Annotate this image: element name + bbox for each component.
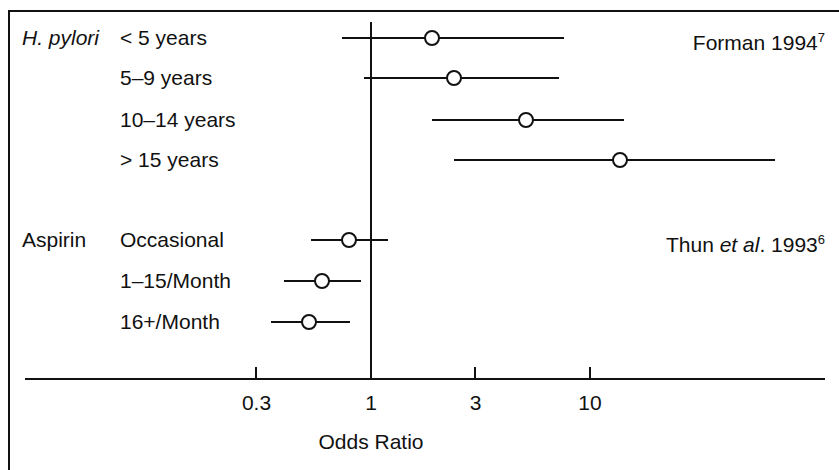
- citation-thun: Thun et al. 19936: [666, 229, 825, 255]
- forest-plot-figure: 0.31310Odds RatioH. pyloriForman 19947< …: [0, 0, 839, 470]
- row-label-7: 16+/Month: [120, 311, 220, 332]
- row-label-1: < 5 years: [120, 27, 207, 48]
- x-axis-tick-1: [370, 367, 372, 378]
- row-label-2: 5–9 years: [120, 67, 212, 88]
- odds-ratio-marker-1: [424, 30, 440, 46]
- odds-ratio-marker-3: [518, 112, 534, 128]
- reference-line-or-1: [370, 22, 372, 378]
- odds-ratio-marker-4: [612, 152, 628, 168]
- x-axis-tick-3: [474, 367, 476, 378]
- row-label-5: Occasional: [120, 229, 224, 250]
- row-label-3: 10–14 years: [120, 109, 236, 130]
- x-axis-tick-label-10: 10: [550, 392, 630, 413]
- odds-ratio-marker-5: [341, 232, 357, 248]
- citation-forman: Forman 19947: [693, 27, 825, 53]
- row-label-6: 1–15/Month: [120, 270, 231, 291]
- row-label-4: > 15 years: [120, 149, 219, 170]
- odds-ratio-marker-6: [314, 273, 330, 289]
- odds-ratio-marker-7: [301, 314, 317, 330]
- x-axis-tick-label-3: 3: [435, 392, 515, 413]
- x-axis-line: [25, 378, 825, 380]
- x-axis-tick-0.3: [255, 367, 257, 378]
- x-axis-tick-10: [589, 367, 591, 378]
- group-label-hpylori: H. pylori: [22, 27, 99, 48]
- confidence-interval-1: [342, 37, 564, 39]
- x-axis-tick-label-1: 1: [331, 392, 411, 413]
- group-label-aspirin: Aspirin: [22, 229, 86, 250]
- plot-area: 0.31310Odds RatioH. pyloriForman 19947< …: [0, 0, 839, 470]
- x-axis-title: Odds Ratio: [251, 431, 491, 452]
- x-axis-tick-label-0.3: 0.3: [216, 392, 296, 413]
- odds-ratio-marker-2: [446, 70, 462, 86]
